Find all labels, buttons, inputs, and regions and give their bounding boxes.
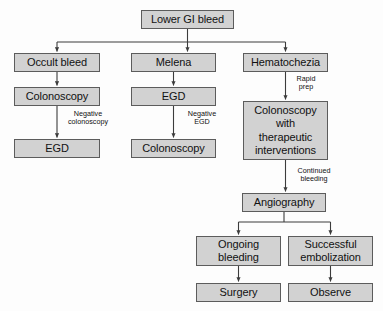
node-hematochezia[interactable]: Hematochezia [243, 53, 328, 72]
node-successful-embolization[interactable]: Successful embolization [288, 236, 373, 266]
node-colonoscopy-therapeutic[interactable]: Colonoscopy with therapeutic interventio… [243, 101, 328, 160]
edge-label-negative-colonoscopy: Negative colonoscopy [60, 110, 116, 127]
edge-label-negative-egd: Negative EGD [178, 110, 226, 127]
node-observe[interactable]: Observe [288, 283, 373, 302]
node-angiography[interactable]: Angiography [242, 193, 326, 212]
node-ongoing-bleeding[interactable]: Ongoing bleeding [196, 236, 281, 266]
node-egd-middle[interactable]: EGD [131, 87, 216, 106]
node-surgery[interactable]: Surgery [196, 283, 281, 302]
flowchart-canvas: Lower GI bleed Occult bleed Melena Hemat… [0, 0, 383, 311]
node-lower-gi-bleed[interactable]: Lower GI bleed [141, 10, 234, 29]
edge-label-continued-bleeding: Continued bleeding [288, 167, 340, 184]
node-colonoscopy-left[interactable]: Colonoscopy [14, 87, 100, 106]
node-melena[interactable]: Melena [131, 53, 216, 72]
node-colonoscopy-middle[interactable]: Colonoscopy [131, 139, 216, 158]
edge-label-rapid-prep: Rapid prep [289, 75, 323, 92]
node-occult-bleed[interactable]: Occult bleed [14, 53, 100, 72]
node-egd-left[interactable]: EGD [14, 139, 100, 158]
